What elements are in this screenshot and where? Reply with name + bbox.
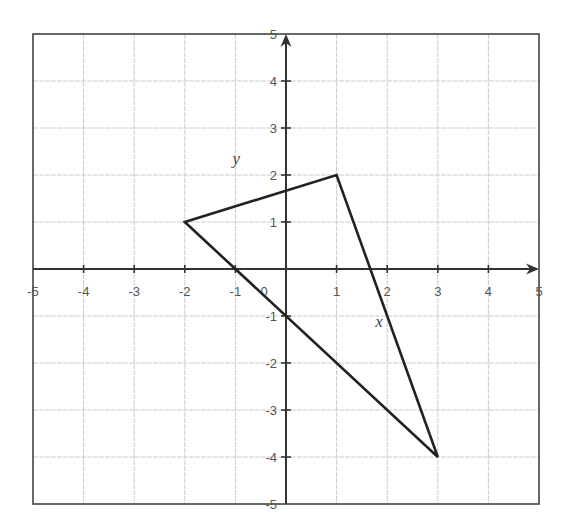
- y-tick-label: 4: [270, 74, 277, 89]
- y-tick-label: 2: [270, 168, 277, 183]
- x-tick-label: -3: [128, 284, 140, 299]
- x-tick-label: -5: [27, 284, 39, 299]
- y-tick-label: 5: [270, 27, 277, 42]
- axes: [33, 34, 539, 504]
- x-tick-label: -4: [78, 284, 90, 299]
- x-tick-label: 4: [485, 284, 492, 299]
- y-tick-label: -4: [265, 450, 277, 465]
- x-tick-label: -1: [230, 284, 242, 299]
- y-tick-label: -2: [265, 356, 277, 371]
- x-tick-label: 3: [434, 284, 441, 299]
- y-variable-label: y: [230, 149, 240, 168]
- y-tick-label: -3: [265, 403, 277, 418]
- coordinate-plane: -5-4-3-2-1123450-5-4-3-2-112345 y x: [0, 0, 567, 532]
- y-tick-label: 3: [270, 121, 277, 136]
- x-tick-label: 5: [535, 284, 542, 299]
- y-tick-label: 1: [270, 215, 277, 230]
- x-tick-label: 2: [384, 284, 391, 299]
- x-variable-label: x: [374, 312, 383, 331]
- x-tick-label: 1: [333, 284, 340, 299]
- y-tick-label: -1: [265, 309, 277, 324]
- y-tick-label: -5: [265, 497, 277, 512]
- graph-svg: -5-4-3-2-1123450-5-4-3-2-112345 y x: [0, 0, 567, 532]
- x-tick-label: -2: [179, 284, 191, 299]
